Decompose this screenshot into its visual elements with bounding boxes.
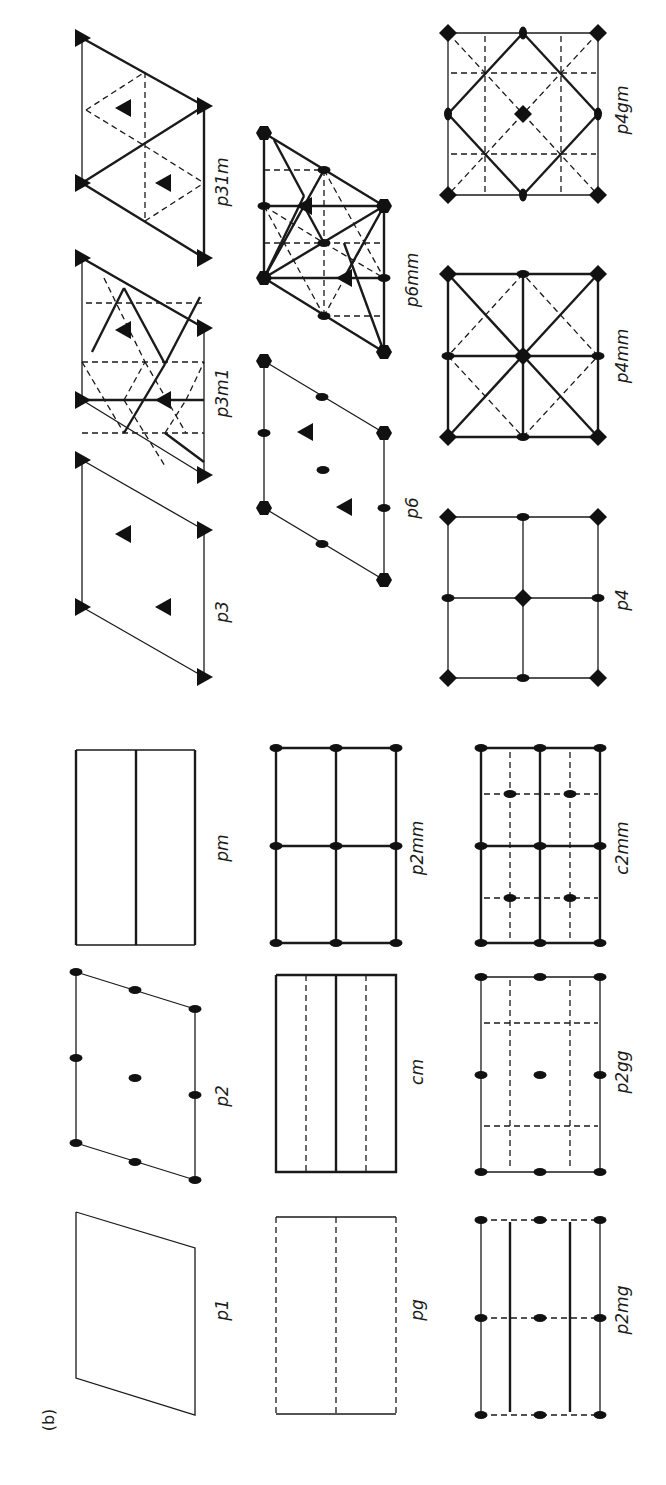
twofold-ellipse-icon xyxy=(564,790,577,798)
twofold-ellipse-icon xyxy=(594,108,602,121)
twofold-ellipse-icon xyxy=(564,894,577,902)
group-label-p2mm: p2mm xyxy=(407,821,427,877)
twofold-ellipse-icon xyxy=(378,274,391,282)
twofold-ellipse-icon xyxy=(70,968,83,976)
twofold-ellipse-icon xyxy=(475,842,488,850)
twofold-ellipse-icon xyxy=(270,744,283,752)
twofold-ellipse-icon xyxy=(534,842,547,850)
twofold-ellipse-icon xyxy=(594,1216,607,1224)
group-label-p3m1: p3m1 xyxy=(212,369,232,419)
twofold-ellipse-icon xyxy=(594,1314,607,1322)
twofold-ellipse-icon xyxy=(258,202,271,210)
background xyxy=(0,0,666,1485)
twofold-ellipse-icon xyxy=(475,973,488,981)
twofold-ellipse-icon xyxy=(534,1314,547,1322)
twofold-ellipse-icon xyxy=(534,1168,547,1176)
twofold-ellipse-icon xyxy=(189,1005,202,1013)
group-label-pm: pm xyxy=(212,834,232,862)
twofold-ellipse-icon xyxy=(390,744,403,752)
twofold-ellipse-icon xyxy=(318,166,331,174)
twofold-ellipse-icon xyxy=(534,1216,547,1224)
twofold-ellipse-icon xyxy=(519,27,527,40)
twofold-ellipse-icon xyxy=(442,352,455,360)
twofold-ellipse-icon xyxy=(594,1411,607,1419)
twofold-ellipse-icon xyxy=(592,594,605,602)
twofold-ellipse-icon xyxy=(444,108,452,121)
twofold-ellipse-icon xyxy=(594,939,607,947)
group-label-p4mm: p4mm xyxy=(612,329,632,385)
twofold-ellipse-icon xyxy=(129,1158,142,1166)
twofold-ellipse-icon xyxy=(442,594,455,602)
twofold-ellipse-icon xyxy=(317,466,330,474)
twofold-ellipse-icon xyxy=(316,393,329,401)
twofold-ellipse-icon xyxy=(534,973,547,981)
twofold-ellipse-icon xyxy=(594,973,607,981)
twofold-ellipse-icon xyxy=(475,744,488,752)
twofold-ellipse-icon xyxy=(504,790,517,798)
group-label-p2: p2 xyxy=(212,1085,232,1108)
group-label-c2mm: c2mm xyxy=(612,821,632,874)
twofold-ellipse-icon xyxy=(70,1054,83,1062)
twofold-ellipse-icon xyxy=(390,939,403,947)
group-label-p6: p6 xyxy=(402,497,422,520)
twofold-ellipse-icon xyxy=(475,939,488,947)
group-label-cm: cm xyxy=(407,1059,427,1085)
twofold-ellipse-icon xyxy=(70,1139,83,1147)
panel-label: (b) xyxy=(39,1409,58,1432)
twofold-ellipse-icon xyxy=(270,842,283,850)
twofold-ellipse-icon xyxy=(475,1168,488,1176)
twofold-ellipse-icon xyxy=(504,894,517,902)
twofold-ellipse-icon xyxy=(330,939,343,947)
twofold-ellipse-icon xyxy=(318,239,331,247)
twofold-ellipse-icon xyxy=(475,1411,488,1419)
group-label-p2gg: p2gg xyxy=(612,1050,632,1094)
twofold-ellipse-icon xyxy=(534,1071,547,1079)
group-label-p4: p4 xyxy=(612,589,632,612)
twofold-ellipse-icon xyxy=(475,1071,488,1079)
wallpaper-groups-figure: (b) p1p2pmp3p3m1p31mpgcmp2mmp6p6mmp2mgp2… xyxy=(0,0,666,1485)
group-label-pg: pg xyxy=(407,1299,427,1322)
twofold-ellipse-icon xyxy=(517,433,530,441)
twofold-ellipse-icon xyxy=(592,352,605,360)
group-label-p6mm: p6mm xyxy=(402,253,422,309)
twofold-ellipse-icon xyxy=(390,842,403,850)
group-label-p4gm: p4gm xyxy=(612,86,632,136)
twofold-ellipse-icon xyxy=(378,504,391,512)
twofold-ellipse-icon xyxy=(517,270,530,278)
group-label-p3: p3 xyxy=(212,601,232,624)
twofold-ellipse-icon xyxy=(258,429,271,437)
twofold-ellipse-icon xyxy=(330,744,343,752)
group-label-p31m: p31m xyxy=(212,158,232,208)
twofold-ellipse-icon xyxy=(594,1071,607,1079)
twofold-ellipse-icon xyxy=(594,842,607,850)
twofold-ellipse-icon xyxy=(594,1168,607,1176)
twofold-ellipse-icon xyxy=(517,513,530,521)
group-label-p1: p1 xyxy=(212,1299,232,1322)
twofold-ellipse-icon xyxy=(475,1216,488,1224)
twofold-ellipse-icon xyxy=(189,1176,202,1184)
twofold-ellipse-icon xyxy=(316,540,329,548)
twofold-ellipse-icon xyxy=(318,312,331,320)
twofold-ellipse-icon xyxy=(534,1411,547,1419)
twofold-ellipse-icon xyxy=(534,744,547,752)
twofold-ellipse-icon xyxy=(594,744,607,752)
twofold-ellipse-icon xyxy=(129,986,142,994)
group-label-p2mg: p2mg xyxy=(612,1285,632,1335)
twofold-ellipse-icon xyxy=(189,1091,202,1099)
twofold-ellipse-icon xyxy=(534,939,547,947)
twofold-ellipse-icon xyxy=(475,1314,488,1322)
twofold-ellipse-icon xyxy=(129,1074,142,1082)
twofold-ellipse-icon xyxy=(330,842,343,850)
twofold-ellipse-icon xyxy=(517,674,530,682)
twofold-ellipse-icon xyxy=(270,939,283,947)
twofold-ellipse-icon xyxy=(519,189,527,202)
